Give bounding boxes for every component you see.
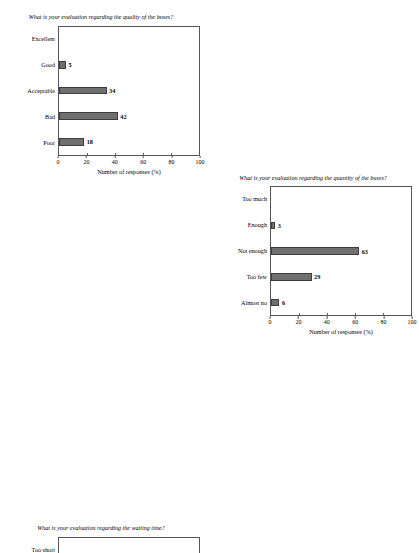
category-axis: Excellent Good Acceptable Bad Poor: [2, 26, 58, 156]
axis-tick: [299, 313, 300, 315]
x-axis: 0 20 40 60 80 100: [58, 156, 200, 167]
bar-row: 3: [271, 220, 411, 232]
category-label: Enough: [214, 221, 267, 229]
category-axis: Too short Short Acceptable Long Too long: [2, 537, 58, 553]
bar-row: 29: [271, 271, 411, 283]
x-tick-label: 0: [57, 159, 60, 165]
bar-value: 6: [282, 299, 285, 306]
bar: [59, 112, 118, 120]
axis-tick: [327, 313, 328, 315]
chart-panel-waiting-time: What is your evaluation regarding the wa…: [2, 525, 200, 553]
bar-row: [271, 194, 411, 206]
bar: [59, 61, 66, 69]
category-label: Bad: [2, 113, 55, 121]
chart-title: What is your evaluation regarding the qu…: [2, 14, 200, 22]
axis-tick: [171, 153, 172, 155]
category-label: Excellent: [2, 35, 55, 43]
axis-tick: [87, 153, 88, 155]
bar: [271, 273, 312, 281]
bar: [271, 299, 279, 307]
chart-title: What is your evaluation regarding the qu…: [214, 175, 412, 183]
bar-value: 29: [314, 273, 320, 280]
bar-row: [59, 33, 199, 45]
bar-row: 42: [59, 110, 199, 122]
bar: [271, 247, 359, 255]
x-tick-label: 60: [352, 319, 358, 325]
figure-sheet: What is your evaluation regarding the qu…: [0, 0, 419, 553]
x-tick-label: 80: [169, 159, 175, 165]
category-axis: Too much Enough Not enough Too few Almos…: [214, 186, 270, 316]
category-label: Not enough: [214, 247, 267, 255]
axis-tick: [115, 153, 116, 155]
x-tick-label: 40: [324, 319, 330, 325]
x-tick-label: 100: [196, 159, 205, 165]
bar-row: 5: [59, 59, 199, 71]
chart-title: What is your evaluation regarding the wa…: [2, 525, 200, 533]
bar-value: 3: [278, 222, 281, 229]
bar-value: 42: [120, 113, 126, 120]
x-tick-label: 80: [381, 319, 387, 325]
x-tick-label: 20: [83, 159, 89, 165]
x-tick-label: 40: [112, 159, 118, 165]
axis-tick: [143, 153, 144, 155]
bar-row: 18: [59, 136, 199, 148]
bar-value: 63: [362, 248, 368, 255]
plot-area: 3 46 51: [58, 537, 200, 553]
axis-tick: [383, 313, 384, 315]
bar-row: 6: [271, 296, 411, 308]
category-label: Acceptable: [2, 87, 55, 95]
category-label: Almost no: [214, 299, 267, 307]
chart-panel-quality: What is your evaluation regarding the qu…: [2, 14, 200, 175]
category-label: Too much: [214, 195, 267, 203]
x-axis-title: Number of responses (%): [58, 168, 200, 175]
category-label: Good: [2, 61, 55, 69]
bar: [59, 87, 107, 95]
bar-row: 63: [271, 245, 411, 257]
x-tick-label: 0: [269, 319, 272, 325]
bar-row: 34: [59, 85, 199, 97]
x-tick-label: 100: [408, 319, 417, 325]
bar-value: 34: [109, 87, 115, 94]
category-label: Poor: [2, 139, 55, 147]
bar: [271, 222, 275, 230]
bar-row: [59, 545, 199, 553]
chart-panel-quantity: What is your evaluation regarding the qu…: [214, 175, 412, 336]
x-tick-label: 60: [140, 159, 146, 165]
x-axis-title: Number of responses (%): [270, 328, 412, 335]
bar-value: 18: [87, 138, 93, 145]
x-tick-label: 20: [295, 319, 301, 325]
x-axis: 0 20 40 60 80 100: [270, 316, 412, 327]
bar: [59, 138, 84, 146]
category-label: Too short: [2, 546, 55, 553]
bar-value: 5: [69, 61, 72, 68]
plot-area: 3 63 29 6: [270, 186, 412, 316]
category-label: Too few: [214, 273, 267, 281]
axis-tick: [355, 313, 356, 315]
plot-area: 5 34 42 18: [58, 26, 200, 156]
